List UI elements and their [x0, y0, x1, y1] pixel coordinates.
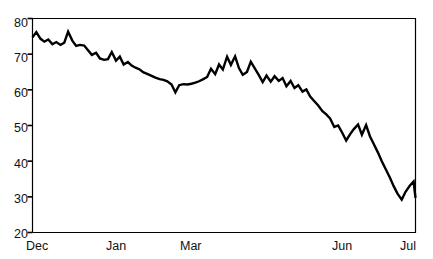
y-axis-ticks	[28, 19, 33, 233]
y-tick-label-60: 60	[6, 87, 28, 100]
y-tick-label-70: 70	[6, 52, 28, 65]
y-tick-label-40: 40	[6, 158, 28, 171]
x-tick-label-mar: Mar	[180, 240, 202, 253]
data-series-line	[33, 32, 416, 200]
x-tick-label-jun: Jun	[332, 240, 352, 253]
y-tick-label-50: 50	[6, 122, 28, 135]
x-tick-label-dec: Dec	[26, 240, 48, 253]
chart-canvas	[0, 0, 433, 259]
y-tick-label-80: 80	[6, 17, 28, 30]
y-tick-label-20: 20	[6, 228, 28, 241]
x-tick-label-jan: Jan	[106, 240, 126, 253]
x-tick-label-jul: Jul	[400, 240, 416, 253]
line-chart: 80 70 60 50 40 30 20 Dec Jan Mar Jun Jul	[0, 0, 433, 259]
y-tick-label-30: 30	[6, 193, 28, 206]
